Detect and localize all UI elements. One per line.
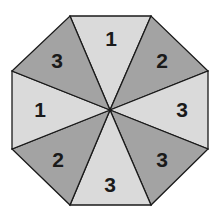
section-label-top-right: 2 xyxy=(156,49,168,72)
section-label-top-left: 3 xyxy=(51,49,63,72)
section-label-bottom-left: 2 xyxy=(52,148,64,171)
center-pivot xyxy=(109,109,112,112)
section-label-top: 1 xyxy=(105,27,117,50)
section-label-bottom: 3 xyxy=(104,173,116,196)
section-label-bottom-right: 3 xyxy=(156,148,168,171)
octagon-spinner: 1 2 3 3 3 2 1 3 xyxy=(0,0,222,215)
section-label-right: 3 xyxy=(176,98,188,121)
section-label-left: 1 xyxy=(34,98,46,121)
